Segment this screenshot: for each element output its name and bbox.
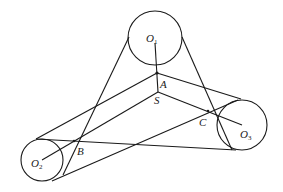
label-c: C bbox=[199, 116, 207, 128]
label-o1: O1 bbox=[146, 32, 158, 46]
belt-o1-o2-upper bbox=[36, 73, 157, 139]
label-b: B bbox=[77, 145, 84, 157]
segment-o1-s bbox=[155, 43, 158, 92]
label-o3: O3 bbox=[240, 128, 252, 142]
pulley-diagram: O1 O2 O3 A S B C bbox=[0, 0, 283, 192]
point-b bbox=[73, 140, 76, 143]
label-o2: O2 bbox=[31, 157, 43, 171]
label-a: A bbox=[159, 78, 167, 90]
belt-o1-o3-upper bbox=[157, 73, 241, 99]
point-a bbox=[155, 71, 158, 74]
label-s: S bbox=[154, 94, 160, 106]
point-c bbox=[207, 110, 210, 113]
